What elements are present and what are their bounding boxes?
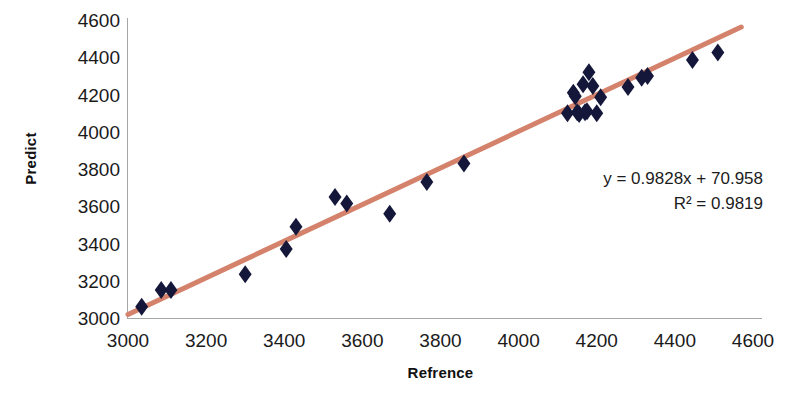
regression-equation: y = 0.9828x + 70.958 <box>603 167 763 192</box>
x-tick-label-0: 3000 <box>107 331 149 350</box>
x-tick-label-6: 4200 <box>576 331 618 350</box>
y-tick-label-3: 3600 <box>58 197 120 216</box>
y-tick-label-2: 3400 <box>58 234 120 253</box>
x-tick-label-4: 3800 <box>419 331 461 350</box>
data-point <box>383 205 396 223</box>
data-point <box>239 265 252 283</box>
data-point <box>590 104 603 122</box>
data-point <box>329 188 342 206</box>
x-tick-label-8: 4600 <box>732 331 774 350</box>
regression-annotation: y = 0.9828x + 70.958 R² = 0.9819 <box>603 167 763 216</box>
x-tick-label-1: 3200 <box>185 331 227 350</box>
y-axis-title: Predict <box>22 99 39 219</box>
x-tick-label-7: 4400 <box>654 331 696 350</box>
x-axis-title: Refrence <box>128 364 753 381</box>
data-point <box>711 44 724 62</box>
x-axis-line <box>128 318 762 319</box>
x-tick-label-5: 4000 <box>497 331 539 350</box>
y-tick-label-1: 3200 <box>58 271 120 290</box>
x-tick-label-2: 3400 <box>263 331 305 350</box>
y-tick-label-8: 4600 <box>58 11 120 30</box>
y-tick-label-5: 4000 <box>58 122 120 141</box>
data-point <box>135 298 148 316</box>
y-tick-label-7: 4400 <box>58 48 120 67</box>
y-tick-label-4: 3800 <box>58 160 120 179</box>
x-tick-label-3: 3600 <box>341 331 383 350</box>
scatter-chart: Predict 30003200340036003800400042004400… <box>0 0 787 396</box>
y-tick-label-6: 4200 <box>58 85 120 104</box>
y-tick-label-0: 3000 <box>58 309 120 328</box>
r-squared-value: R² = 0.9819 <box>603 192 763 217</box>
